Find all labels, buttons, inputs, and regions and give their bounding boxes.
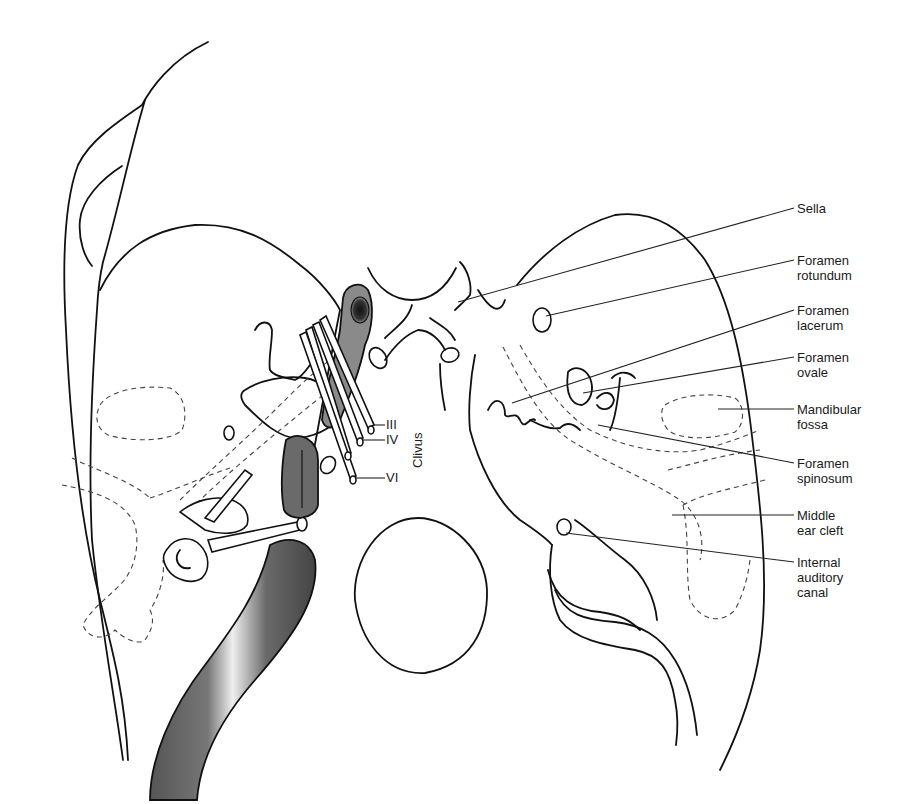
label-mandibular-fossa: Mandibular fossa — [797, 402, 861, 432]
label-foramen-lacerum: Foramen lacerum — [797, 303, 849, 333]
label-foramen-rotundum: Foramen rotundum — [797, 253, 852, 283]
label-nerve-iii: III — [386, 417, 397, 432]
label-middle-ear-cleft: Middle ear cleft — [797, 508, 843, 538]
label-foramen-ovale: Foramen ovale — [797, 350, 849, 380]
internal-carotid-artery — [150, 540, 316, 800]
right-foramina — [488, 308, 635, 430]
foramen-magnum — [355, 518, 487, 673]
right-middle-fossa-outline — [517, 214, 764, 770]
skull-base-diagram — [0, 0, 909, 804]
label-sella: Sella — [797, 201, 826, 216]
sella-structure — [366, 262, 552, 545]
carotid-lumen — [351, 297, 369, 323]
label-internal-auditory-canal: Internal auditory canal — [797, 555, 843, 600]
left-small-foramen — [224, 426, 234, 440]
carotid-stub — [317, 454, 338, 477]
label-nerve-iv: IV — [386, 432, 398, 447]
scalp-outline — [64, 42, 208, 760]
label-nerve-vi: VI — [386, 470, 398, 485]
label-foramen-spinosum: Foramen spinosum — [797, 456, 853, 486]
right-dashed-outlines — [503, 345, 765, 619]
right-petrous-lines — [548, 519, 697, 745]
label-clivus: Clivus — [410, 433, 425, 468]
cavernous-carotid — [282, 436, 318, 518]
